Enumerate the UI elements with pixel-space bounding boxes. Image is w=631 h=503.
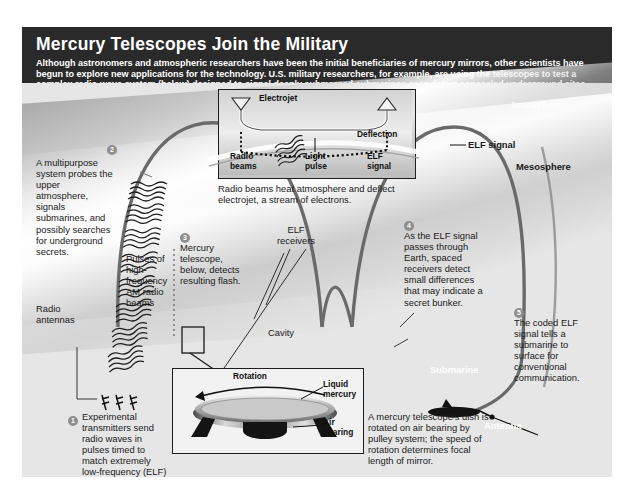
- label-radio-beams: Radio beams: [230, 152, 272, 171]
- callout-2-number: 2: [107, 145, 117, 155]
- callout-4-text: As the ELF signal passes through Earth, …: [404, 230, 486, 308]
- callout-5-text: The coded ELF signal tells a submarine t…: [514, 317, 596, 384]
- callout-1-text: Experimental transmitters send radio wav…: [82, 411, 170, 477]
- label-liquid-mercury: Liquid mercury: [323, 380, 359, 399]
- callout-1-marker: 1: [68, 412, 78, 430]
- electrojet-inset-panel: Electrojet Deflection Radio beams Light …: [218, 89, 416, 179]
- label-mesosphere: Mesosphere: [516, 161, 571, 172]
- callout-3-text: Mercury telescope, below, detects result…: [180, 242, 250, 286]
- mercury-telescope-inset-panel: Rotation Liquid mercury Air bearing: [172, 368, 364, 454]
- callout-1-number: 1: [68, 416, 78, 426]
- label-rotation: Rotation: [233, 372, 267, 382]
- label-radio-antennas: Radio antennas: [36, 303, 94, 325]
- label-elf-receivers: ELF receivers: [270, 224, 322, 246]
- label-elf-signal-inset: ELF signal: [367, 152, 399, 171]
- label-cavity: Cavity: [268, 327, 314, 338]
- label-air-bearing: Air bearing: [323, 418, 357, 437]
- infographic-panel: Mercury Telescopes Join the Military Alt…: [22, 27, 612, 477]
- label-pulses: Pulses of high-frequency AM radio beams: [126, 253, 178, 308]
- electrojet-inset-caption: Radio beams heat atmosphere and deflect …: [218, 183, 416, 205]
- label-submarine: Submarine: [430, 364, 478, 375]
- label-elf-signal: ELF signal: [468, 139, 515, 150]
- mercury-dish-caption: A mercury telescope's dish is rotated on…: [368, 411, 492, 466]
- label-ionosphere: Ionosphere: [512, 99, 563, 110]
- label-electrojet: Electrojet: [259, 94, 297, 104]
- callout-2-marker: 2: [107, 141, 117, 159]
- label-light-pulse: Light pulse: [305, 152, 339, 171]
- label-deflection: Deflection: [357, 130, 398, 140]
- callout-2-text: A multipurpose system probes the upper a…: [36, 157, 114, 257]
